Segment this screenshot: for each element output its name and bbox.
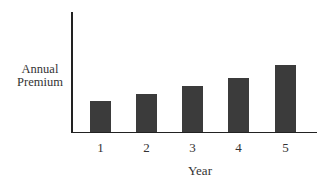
- x-tick-4: 4: [228, 140, 249, 156]
- bar-year-5: [275, 65, 296, 132]
- bar-year-1: [90, 101, 111, 132]
- x-tick-3: 3: [182, 140, 203, 156]
- bar-year-4: [228, 78, 249, 132]
- y-axis: [71, 12, 73, 133]
- x-tick-5: 5: [275, 140, 296, 156]
- y-axis-label-line-2: Premium: [12, 76, 68, 89]
- x-axis-label: Year: [170, 163, 230, 179]
- bar-year-3: [182, 86, 203, 132]
- bar-year-2: [136, 94, 157, 132]
- y-axis-label: Annual Premium: [12, 63, 68, 89]
- x-tick-2: 2: [136, 140, 157, 156]
- x-tick-1: 1: [90, 140, 111, 156]
